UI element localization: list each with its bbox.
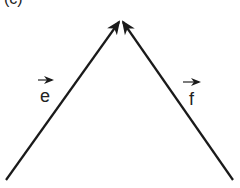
- vector-f-arrow: [123, 22, 233, 180]
- vector-diagram: (c) e f: [0, 0, 240, 188]
- panel-label: (c): [4, 0, 23, 7]
- vector-e-label: e: [40, 86, 50, 106]
- vector-f-label: f: [189, 89, 195, 109]
- vector-e-arrow: [6, 22, 119, 180]
